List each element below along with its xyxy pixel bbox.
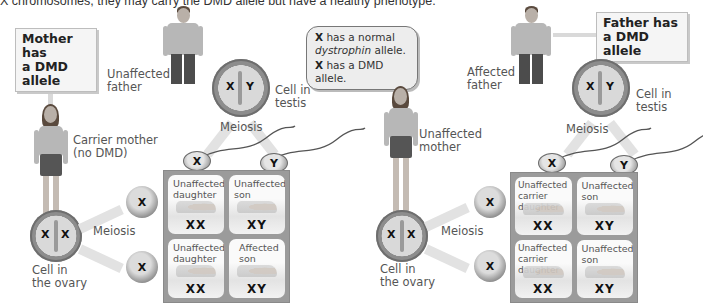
baby-icon xyxy=(237,265,277,277)
offspring-cell: Unaffectedson XY xyxy=(577,240,634,298)
chromosome-x-normal: X xyxy=(41,228,49,241)
offspring-cell: Unaffectedcarrier daughter XX xyxy=(515,240,572,298)
ovary-cell-label: Cell in the ovary xyxy=(32,264,87,290)
unaffected-father-label: Unaffected father xyxy=(107,68,170,94)
egg-x-top: X xyxy=(474,186,506,218)
ovary-cell-label: Cell in the ovary xyxy=(380,263,435,289)
genotype: XX xyxy=(515,282,572,296)
figure-caption: X chromosomes, they may carry the DMD al… xyxy=(0,0,703,8)
normal-x-symbol: X xyxy=(315,31,323,43)
chromosome-y: Y xyxy=(606,80,614,93)
chromosome-x: X xyxy=(226,80,234,93)
dmd-x-symbol: X xyxy=(315,59,323,71)
testis-cell-label: Cell in testis xyxy=(275,84,311,110)
baby-icon xyxy=(523,203,564,215)
chromosome-x-dmd: X xyxy=(586,80,594,93)
father-dmd-callout: Father has a DMD allele xyxy=(596,12,688,62)
testis-cell: X Y xyxy=(212,59,270,117)
egg-x-bottom: X xyxy=(126,251,158,283)
callout-stem xyxy=(553,33,597,37)
ovary-cell: X X xyxy=(376,210,428,262)
baby-icon xyxy=(176,265,216,277)
baby-icon xyxy=(176,201,216,213)
ovary-cell: X X xyxy=(30,210,82,262)
offspring-cell: Unaffectedson XY xyxy=(229,175,285,234)
genotype: XX xyxy=(168,218,224,232)
offspring-cell: Unaffectedson XY xyxy=(577,177,634,235)
offspring-cell: Unaffecteddaughter XX xyxy=(168,175,224,234)
affected-father-figure xyxy=(511,6,551,84)
baby-icon xyxy=(585,203,626,215)
genotype: XY xyxy=(577,219,634,233)
mother-dmd-callout: Mother has a DMD allele xyxy=(15,28,97,92)
chromosome-x-normal: X xyxy=(407,228,415,241)
chromosome-x-normal: X xyxy=(387,228,395,241)
affected-father-label: Affected father xyxy=(467,66,515,92)
allele-legend: X has a normal dystrophin allele. X has … xyxy=(306,26,418,90)
genotype: XX xyxy=(515,219,572,233)
egg-x-top: X xyxy=(126,186,158,218)
testis-cell: X Y xyxy=(572,59,630,117)
genotype: XY xyxy=(577,282,634,296)
unaffected-mother-label: Unaffected mother xyxy=(419,128,482,154)
sperm-x: X xyxy=(538,153,566,173)
baby-icon xyxy=(585,266,626,278)
offspring-cell: Unaffectedcarrier daughter XX xyxy=(515,177,572,235)
chromosome-y: Y xyxy=(246,80,254,93)
ovary-meiosis-label: Meiosis xyxy=(93,225,135,238)
punnett-square-right: Unaffectedcarrier daughter XX Unaffected… xyxy=(510,172,638,303)
ovary-meiosis-label: Meiosis xyxy=(441,225,483,238)
egg-x-bottom: X xyxy=(474,250,506,282)
testis-cell-label: Cell in testis xyxy=(636,88,672,114)
genotype: XY xyxy=(229,218,285,232)
carrier-mother-label: Carrier mother (no DMD) xyxy=(73,134,158,160)
genotype: XY xyxy=(229,282,285,296)
chromosome-x-dmd: X xyxy=(61,228,69,241)
offspring-cell: Affectedson XY xyxy=(229,239,285,298)
offspring-cell: Unaffecteddaughter XX xyxy=(168,239,224,298)
sperm-x: X xyxy=(183,151,211,171)
genotype: XX xyxy=(168,282,224,296)
baby-icon xyxy=(237,201,277,213)
punnett-square-left: Unaffecteddaughter XX Unaffectedson XY U… xyxy=(163,170,290,303)
baby-icon xyxy=(523,266,564,278)
